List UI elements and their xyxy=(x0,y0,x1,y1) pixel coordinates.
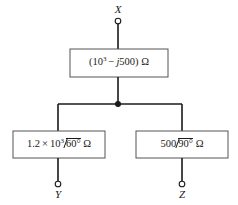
terminal-label-y: Y xyxy=(48,188,68,200)
series-impedance-label: (103−j500) Ω xyxy=(70,57,168,68)
angle-notation-right: 90° xyxy=(176,138,193,150)
right-magnitude: 500 xyxy=(161,138,177,149)
left-branch-impedance-label: 1.2×10360° Ω xyxy=(13,138,105,150)
series-reactance: 500 xyxy=(119,56,135,67)
series-close-paren: ) xyxy=(135,56,139,67)
left-unit-ohm: Ω xyxy=(83,138,91,149)
terminal-circle-y xyxy=(55,181,61,187)
left-base: 10 xyxy=(50,138,61,149)
right-branch-impedance-label: 50090° Ω xyxy=(136,138,228,150)
left-angle-value: 60 xyxy=(66,138,77,149)
multiplication-sign: × xyxy=(40,138,50,149)
right-degree-sign: ° xyxy=(189,138,193,149)
impedance-network-figure: X Y Z (103−j500) Ω 1.2×10360° Ω 50090° Ω xyxy=(0,0,238,205)
terminal-circle-z xyxy=(179,181,185,187)
right-angle-value: 90 xyxy=(178,138,189,149)
left-coefficient: 1.2 xyxy=(27,138,40,149)
terminal-label-x: X xyxy=(108,3,128,15)
terminal-label-z: Z xyxy=(172,188,192,200)
angle-notation-left: 60° xyxy=(64,138,81,150)
series-sign: − xyxy=(106,56,116,67)
terminal-circle-x xyxy=(115,18,121,24)
series-unit-ohm: Ω xyxy=(141,56,149,67)
node-junction-dot xyxy=(115,101,121,107)
left-degree-sign: ° xyxy=(76,138,80,149)
circuit-schematic-lines xyxy=(0,0,238,205)
right-unit-ohm: Ω xyxy=(196,138,204,149)
series-base: 10 xyxy=(92,56,103,67)
